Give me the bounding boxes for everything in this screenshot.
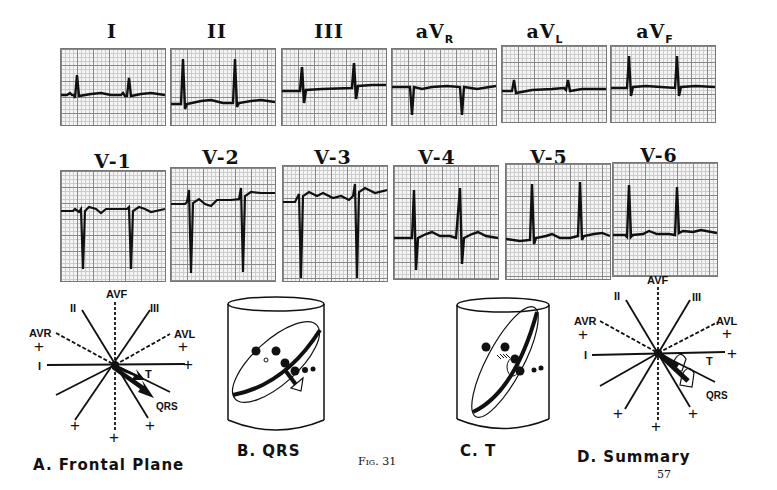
cylinder-top <box>228 297 324 311</box>
ecg-trace-avl <box>502 46 606 122</box>
caption-a: A. Frontal Plane <box>33 456 184 474</box>
plus-iii: + <box>70 416 80 435</box>
ecg-strip-v2 <box>170 167 276 282</box>
plus-iii: + <box>613 404 623 423</box>
label-ii: II <box>614 290 620 302</box>
label-iii: III <box>150 302 159 314</box>
ecg-strip-iii <box>281 48 387 126</box>
lead-title-ii: II <box>162 20 272 42</box>
label-t: T <box>706 355 713 367</box>
plane-ellipse <box>225 309 332 415</box>
plus-avl: + <box>722 324 732 343</box>
plus-ii: + <box>145 416 155 435</box>
ecg-trace-avf <box>611 46 715 122</box>
ecg-strip-v5 <box>505 163 611 280</box>
label-avf: AVF <box>647 275 668 286</box>
plus-i: + <box>183 355 193 374</box>
ecg-strip-v3 <box>282 165 388 282</box>
ecg-strip-v6 <box>612 162 718 277</box>
lead-title-v2: V-2 <box>166 146 276 168</box>
lead-title-i: I <box>57 20 167 42</box>
label-i: I <box>584 349 587 361</box>
lead-title-avf: aVF <box>600 20 710 46</box>
page-number: 57 <box>657 468 671 481</box>
ecg-strip-ii <box>170 48 276 126</box>
label-avf: AVF <box>106 288 127 300</box>
ecg-strip-avl <box>501 45 607 123</box>
cylinder-bottom <box>457 419 549 429</box>
lower-left-axis <box>56 365 115 395</box>
ecg-trace-v4 <box>394 166 498 279</box>
plus-i: + <box>727 344 737 363</box>
ecg-strip-v4 <box>393 165 499 280</box>
ecg-trace-ii <box>171 49 275 125</box>
label-ii: II <box>70 302 76 314</box>
qrs-cylinder-diagram <box>225 290 335 440</box>
lead-title-avl: aVL <box>490 20 600 46</box>
ecg-trace-v1 <box>61 171 165 281</box>
plus-avf: + <box>109 428 119 447</box>
plane-ellipse-thick-edge <box>473 312 537 412</box>
ecg-trace-i <box>61 49 165 125</box>
ecg-trace-avr <box>392 49 496 125</box>
caption-b: B. QRS <box>237 442 300 460</box>
ecg-strip-v1 <box>60 170 166 282</box>
plus-avl: + <box>178 337 188 356</box>
plus-avf: + <box>651 417 661 436</box>
ecg-strip-avf <box>610 45 716 123</box>
label-t: T <box>145 368 152 380</box>
ecg-trace-v5 <box>506 164 610 279</box>
ecg-trace-v3 <box>283 166 387 281</box>
cylinder-top <box>457 298 549 312</box>
ecg-strip-i <box>60 48 166 126</box>
t-cylinder-diagram <box>455 292 555 442</box>
ecg-trace-v2 <box>171 168 275 281</box>
lead-title-avr: aVR <box>380 20 490 46</box>
label-iii: III <box>692 291 701 303</box>
caption-c: C. T <box>460 442 496 460</box>
cylinder-bottom <box>228 420 324 430</box>
frontal-plane-diagram: AVF II III AVR AVL I T QRS + + + + + + <box>20 280 220 460</box>
ecg-trace-iii <box>282 49 386 125</box>
plus-avr: + <box>34 337 44 356</box>
figure-label: Fig. 31 <box>358 455 396 468</box>
ecg-trace-v6 <box>613 163 717 276</box>
lead-title-v1: V-1 <box>58 150 168 172</box>
lead-title-iii: III <box>274 20 384 42</box>
plus-avr: + <box>578 325 588 344</box>
label-i: I <box>38 360 41 372</box>
avr-axis <box>600 321 658 353</box>
caption-d: D. Summary <box>577 448 690 466</box>
label-qrs: QRS <box>156 401 178 412</box>
label-qrs: QRS <box>706 390 728 401</box>
plus-ii: + <box>688 404 698 423</box>
origin-dot <box>111 361 119 369</box>
ecg-strip-avr <box>391 48 497 126</box>
summary-diagram: AVF II III AVR AVL I T QRS + + + + + + <box>570 275 777 455</box>
